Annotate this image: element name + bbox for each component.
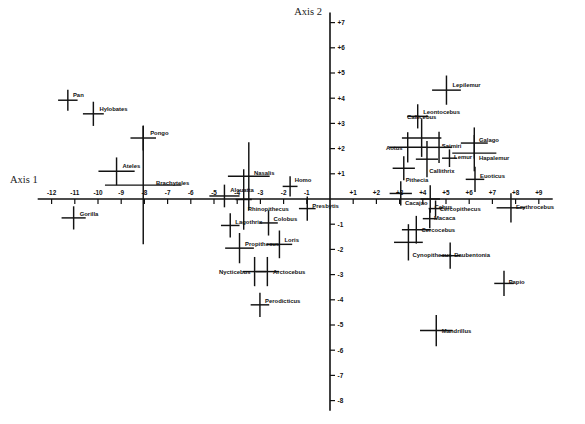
- y-axis-tick-label: -6: [338, 347, 344, 354]
- y-axis-tick-label: +4: [338, 95, 346, 102]
- data-point-label: Erythrocebus: [516, 204, 555, 210]
- scatter-plot-figure: -12-11-10-9-8-7-6-5-4-3-2-1+1+2+3+4+5+6+…: [0, 0, 585, 424]
- y-axis-tick-label: -8: [338, 397, 344, 404]
- y-axis-tick-label: +6: [338, 44, 346, 51]
- y-axis-tick-label: -3: [338, 271, 344, 278]
- data-points-layer: PanHylobatesPongoAtelesBrachytelesGorill…: [58, 76, 555, 347]
- data-point-label: Hapalemur: [479, 155, 510, 161]
- x-axis-tick-label: -2: [281, 189, 287, 196]
- data-point-label: Hylobates: [99, 106, 128, 112]
- data-point-label: Mandrillus: [442, 328, 472, 334]
- data-point: Colobus: [259, 210, 298, 235]
- y-axis-tick-label: -7: [338, 372, 344, 379]
- data-point-label: Euoticus: [480, 173, 506, 179]
- plot-canvas: -12-11-10-9-8-7-6-5-4-3-2-1+1+2+3+4+5+6+…: [0, 0, 585, 424]
- data-point-label: Homo: [295, 177, 312, 183]
- data-point: Lepilemur: [432, 76, 481, 105]
- data-point: Gorilla: [62, 206, 99, 229]
- data-point: Lemur: [442, 149, 473, 167]
- y-axis-tick-label: -5: [338, 321, 344, 328]
- x-axis-tick-label: -5: [211, 189, 217, 196]
- x-axis-tick-label: +2: [373, 189, 381, 196]
- y-axis-tick-label: +5: [338, 69, 346, 76]
- data-point-label: Saimiri: [442, 143, 462, 149]
- data-point: Hylobates: [83, 102, 128, 126]
- axis-titles-layer: Axis 1Axis 2: [10, 6, 322, 185]
- data-point-label: Callicebus: [407, 114, 437, 120]
- data-point: Mandrillus: [420, 315, 472, 346]
- data-point-label: Arctocebus: [273, 269, 306, 275]
- y-axis-tick-label: +1: [338, 170, 346, 177]
- data-point-label: Loris: [285, 237, 300, 243]
- x-axis-tick-label: -11: [70, 189, 79, 196]
- x-axis-tick-label: +8: [512, 189, 520, 196]
- y-axis-tick-label: +7: [338, 19, 346, 26]
- x-axis-tick-label: +7: [489, 189, 497, 196]
- data-point-label: Cacajao: [405, 200, 428, 206]
- x-axis-tick-label: -12: [47, 189, 57, 196]
- data-point-label: Pan: [73, 92, 84, 98]
- data-point: Loris: [267, 231, 300, 259]
- x-axis-tick-label: +4: [419, 189, 427, 196]
- data-point: Cercopithecus: [429, 201, 482, 217]
- x-axis-tick-label: +6: [466, 189, 474, 196]
- data-point: Papio: [494, 271, 525, 296]
- x-axis-tick-label: -3: [258, 189, 264, 196]
- data-point: Pongo: [130, 125, 168, 150]
- data-point-label: Cercopithecus: [440, 206, 482, 212]
- y-axis-tick-label: +2: [338, 145, 346, 152]
- data-point-label: Nycticebus: [219, 269, 251, 275]
- data-point: Ateles: [98, 157, 141, 185]
- data-point-label: Pongo: [150, 130, 169, 136]
- data-point-label: Daubentonia: [454, 252, 490, 258]
- data-point: Aotus: [386, 132, 426, 162]
- x-axis-tick-label: -10: [93, 189, 103, 196]
- x-axis-tick-label: +5: [442, 189, 450, 196]
- data-point-label: Brachyteles: [156, 180, 190, 186]
- x-axis-tick-label: -1: [304, 189, 310, 196]
- data-point-label: Galago: [479, 137, 499, 143]
- data-point: Daubentonia: [440, 243, 490, 269]
- x-axis-tick-label: -9: [118, 189, 124, 196]
- data-point-label: Gorilla: [80, 211, 99, 217]
- data-point: Pan: [58, 90, 84, 111]
- data-point-label: Presbytis: [312, 203, 339, 209]
- data-point: Perodicticus: [251, 293, 301, 317]
- y-axis-tick-label: +3: [338, 120, 346, 127]
- data-point-label: Cercocebus: [421, 227, 455, 233]
- data-point: Presbytis: [299, 196, 340, 220]
- data-point-label: Ateles: [123, 163, 141, 169]
- data-point-label: Pithecia: [406, 177, 429, 183]
- data-point: Brachyteles: [105, 126, 190, 244]
- data-point-label: Colobus: [274, 216, 298, 222]
- data-point-label: Macaca: [434, 215, 456, 221]
- y-axis-tick-label: -2: [338, 246, 344, 253]
- x-axis-tick-label: -8: [142, 189, 148, 196]
- x-axis-tick-label: -6: [188, 189, 194, 196]
- data-point-label: Lagothrix: [235, 219, 263, 225]
- data-point-label: Papio: [509, 279, 525, 285]
- x-axis-tick-label: +1: [350, 189, 358, 196]
- x-axis-tick-label: +3: [396, 189, 404, 196]
- data-point-label: Lepilemur: [452, 82, 481, 88]
- x-axis-tick-label: +9: [535, 189, 543, 196]
- y-axis-tick-label: -1: [338, 221, 344, 228]
- data-point: Lagothrix: [221, 213, 263, 237]
- y-axis-tick-label: -4: [338, 296, 344, 303]
- x-axis-tick-label: -7: [165, 189, 171, 196]
- x-axis-title: Axis 1: [10, 174, 38, 185]
- data-point-label: Callithrix: [429, 168, 455, 174]
- y-axis-title: Axis 2: [294, 6, 322, 17]
- data-point-label: Lemur: [454, 154, 473, 160]
- data-point-label: Aotus: [386, 145, 403, 151]
- data-point: Pithecia: [393, 156, 429, 183]
- data-point-label: Alouatta: [230, 187, 254, 193]
- data-point: Propithecus: [225, 233, 280, 263]
- data-point-label: Perodicticus: [265, 298, 301, 304]
- data-point: Erythrocebus: [497, 193, 555, 222]
- data-point-label: Nasalis: [254, 170, 275, 176]
- data-point: Arctocebus: [256, 257, 306, 286]
